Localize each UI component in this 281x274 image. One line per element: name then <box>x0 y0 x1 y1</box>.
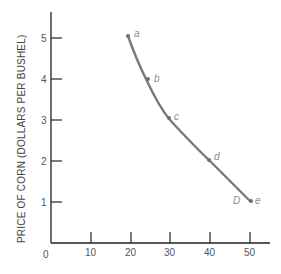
x-tick-label-50: 50 <box>244 247 256 258</box>
x-tick-label-40: 40 <box>204 247 216 258</box>
point-label-c: c <box>174 111 179 122</box>
demand-chart: PRICE OF CORN (DOLLARS PER BUSHEL) 1 2 3… <box>0 0 281 274</box>
x-tick-label-0: 0 <box>43 249 49 260</box>
data-points <box>126 34 253 203</box>
y-ticks <box>51 38 62 202</box>
y-tick-label-5: 5 <box>41 33 47 44</box>
y-tick-label-3: 3 <box>41 115 47 126</box>
y-tick-label-1: 1 <box>41 197 47 208</box>
x-tick-label-10: 10 <box>85 247 97 258</box>
x-tick-label-30: 30 <box>164 247 176 258</box>
point-label-e: e <box>255 195 261 206</box>
x-tick-label-20: 20 <box>125 247 137 258</box>
point-label-a: a <box>134 28 140 39</box>
point-label-b: b <box>154 73 160 84</box>
y-tick-label-2: 2 <box>41 156 47 167</box>
x-ticks <box>91 232 250 243</box>
curve-label-D: D <box>233 195 240 206</box>
point-label-d: d <box>214 151 220 162</box>
demand-curve <box>128 36 250 201</box>
y-axis-title: PRICE OF CORN (DOLLARS PER BUSHEL) <box>16 34 27 243</box>
y-tick-label-4: 4 <box>41 74 47 85</box>
